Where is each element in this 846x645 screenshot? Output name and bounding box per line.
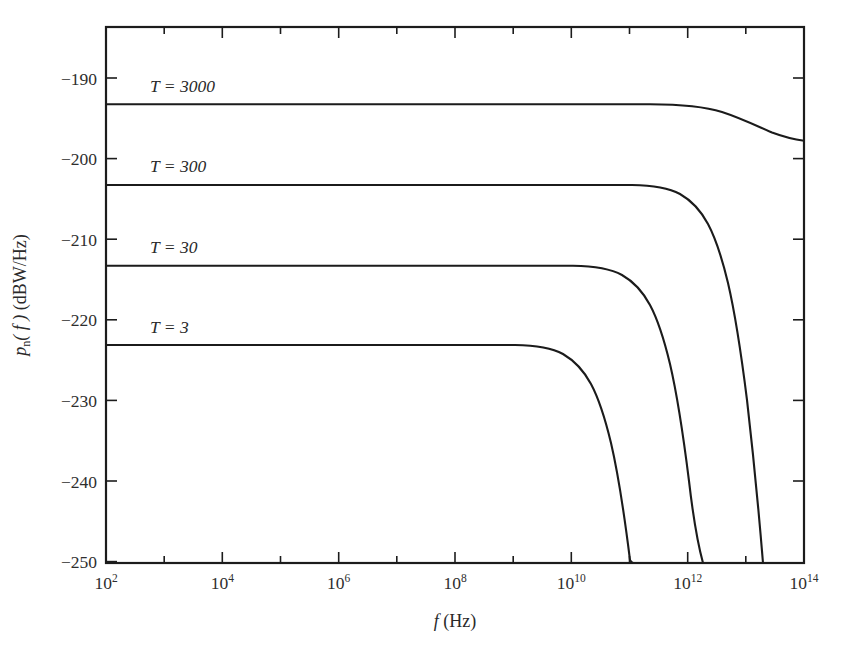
x-tick-mantissa: 10 xyxy=(443,573,461,593)
x-tick-mantissa: 10 xyxy=(790,573,808,593)
chart-canvas: −190 −200 −210 −220 −230 −240 −250 102 1… xyxy=(0,0,846,645)
x-tick-exponent: 12 xyxy=(691,572,703,584)
x-tick-label: 108 xyxy=(443,572,467,593)
x-tick-mantissa: 10 xyxy=(94,573,112,593)
x-tick-label: 102 xyxy=(94,572,118,593)
x-tick-mantissa: 10 xyxy=(327,573,345,593)
x-tick-mantissa: 10 xyxy=(673,573,691,593)
x-tick-exponent: 6 xyxy=(345,572,351,584)
x-axis-title: f (Hz) xyxy=(434,611,477,632)
x-tick-labels: 102 104 106 108 1010 1012 1014 xyxy=(94,572,818,593)
y-tick-label: −240 xyxy=(61,472,97,492)
curve-T-30 xyxy=(106,266,703,563)
x-tick-exponent: 4 xyxy=(228,572,234,584)
x-tick-exponent: 14 xyxy=(807,572,819,584)
y-tick-labels: −190 −200 −210 −220 −230 −240 −250 xyxy=(61,69,97,573)
y-tick-label: −200 xyxy=(61,149,97,169)
curve-label-T-3000: T = 3000 xyxy=(150,76,215,96)
x-tick-label: 104 xyxy=(211,572,235,593)
curve-labels: T = 3000 T = 300 T = 30 T = 3 xyxy=(150,76,215,337)
curve-label-T-3: T = 3 xyxy=(150,317,189,337)
curve-label-T-300: T = 300 xyxy=(150,156,206,176)
x-tick-label: 1012 xyxy=(673,572,702,593)
y-tick-label: −210 xyxy=(61,230,97,250)
y-axis-title-unit: (dBW/Hz) xyxy=(10,234,31,310)
x-tick-mantissa: 10 xyxy=(557,573,575,593)
x-axis-title-unit: (Hz) xyxy=(443,611,476,632)
y-tick-label: −190 xyxy=(61,69,97,89)
curve-T-3 xyxy=(106,345,633,563)
x-tick-label: 1010 xyxy=(557,572,586,593)
x-tick-exponent: 8 xyxy=(461,572,467,584)
x-tick-exponent: 2 xyxy=(112,572,118,584)
x-axis-minor-ticks xyxy=(164,27,746,563)
y-axis-title-arg: ( f ) xyxy=(10,315,31,341)
x-tick-label: 1014 xyxy=(790,572,819,593)
y-axis-title-symbol: p xyxy=(10,347,30,358)
y-axis-title: pn( f ) (dBW/Hz) xyxy=(10,234,33,357)
curve-T-300 xyxy=(106,185,763,563)
series-curves xyxy=(106,104,804,563)
curve-label-T-30: T = 30 xyxy=(150,237,198,257)
curve-T-3000 xyxy=(106,104,804,141)
y-tick-label: −220 xyxy=(61,310,97,330)
y-tick-label: −250 xyxy=(61,552,97,572)
x-tick-exponent: 10 xyxy=(574,572,586,584)
x-tick-label: 106 xyxy=(327,572,351,593)
y-tick-label: −230 xyxy=(61,391,97,411)
y-axis-ticks xyxy=(106,78,804,562)
noise-psd-figure: −190 −200 −210 −220 −230 −240 −250 102 1… xyxy=(0,0,846,645)
x-tick-mantissa: 10 xyxy=(211,573,229,593)
